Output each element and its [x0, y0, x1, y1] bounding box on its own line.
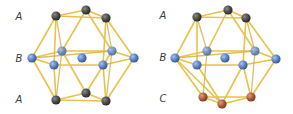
atom-layer-c [246, 92, 255, 101]
atom-layer-c [217, 99, 226, 108]
atom-layer-b [98, 60, 107, 69]
atom-layer-b [202, 46, 211, 55]
atom-layer-a [101, 13, 110, 22]
close-packing-diagram: A B A [0, 0, 293, 114]
layer-label-b: B [160, 52, 167, 63]
atom-layer-a [223, 5, 232, 14]
layer-label-c: C [160, 93, 167, 104]
atom-layer-b [238, 60, 247, 69]
atom-layer-b [129, 53, 138, 62]
atom-layer-b [271, 54, 280, 63]
atom-layer-b [170, 53, 179, 62]
layer-label-b: B [16, 53, 23, 64]
atom-layer-a [101, 96, 110, 105]
atom-layer-c [198, 92, 207, 101]
atom-layer-a [192, 12, 201, 21]
atom-layer-b-center [220, 53, 229, 62]
layer-label-a: A [159, 10, 167, 21]
atom-layer-b [192, 60, 201, 69]
hcp-figure: A B A [15, 5, 139, 105]
atom-layer-b [250, 46, 259, 55]
atom-layer-b [27, 53, 36, 62]
layer-label-a-bottom: A [15, 94, 23, 105]
atom-layer-a [51, 11, 60, 20]
layer-label-a-top: A [15, 11, 23, 22]
fcc-figure: A B C [159, 5, 281, 108]
atom-layer-a [51, 95, 60, 104]
atom-layer-a [81, 88, 90, 97]
atom-layer-b [57, 46, 66, 55]
atom-layer-b [49, 60, 58, 69]
atom-layer-b-center [77, 53, 86, 62]
atom-layer-a [81, 5, 90, 14]
atom-layer-b [107, 46, 116, 55]
atom-layer-a [241, 13, 250, 22]
